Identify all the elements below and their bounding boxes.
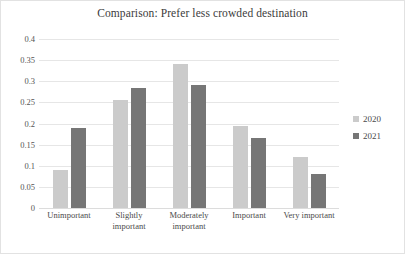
- x-axis-label-line: Very important: [279, 210, 339, 221]
- x-axis-label-line: important: [159, 221, 219, 232]
- y-axis-tick-label: 0.3: [24, 76, 35, 86]
- x-axis-label-line: Unimportant: [39, 210, 99, 221]
- bar-group: [279, 39, 339, 208]
- x-axis-label-line: important: [99, 221, 159, 232]
- y-axis-tick-label: 0.25: [20, 97, 35, 107]
- y-axis-tick-labels: 00.050.10.150.20.250.30.350.4: [1, 39, 35, 208]
- legend-label: 2020: [363, 114, 381, 124]
- chart-title: Comparison: Prefer less crowded destinat…: [1, 7, 404, 19]
- bar-2020[interactable]: [293, 157, 308, 208]
- x-axis-category-labels: UnimportantSlightlyimportantModeratelyim…: [39, 210, 339, 231]
- bar-group: [39, 39, 99, 208]
- bar-group: [159, 39, 219, 208]
- legend: 20202021: [353, 114, 381, 148]
- gridline: [39, 208, 339, 209]
- y-axis-tick-label: 0: [31, 203, 35, 213]
- x-axis-label: Moderatelyimportant: [159, 210, 219, 231]
- y-axis-tick-label: 0.1: [24, 161, 35, 171]
- legend-item-2021[interactable]: 2021: [353, 131, 381, 141]
- bar-group: [99, 39, 159, 208]
- legend-swatch-icon: [353, 133, 359, 139]
- legend-label: 2021: [363, 131, 381, 141]
- x-axis-label: Slightlyimportant: [99, 210, 159, 231]
- y-axis-tick-label: 0.05: [20, 182, 35, 192]
- y-axis-tick-label: 0.2: [24, 119, 35, 129]
- y-axis-tick-label: 0.4: [24, 34, 35, 44]
- bar-2020[interactable]: [53, 170, 68, 208]
- y-axis-tick-label: 0.15: [20, 140, 35, 150]
- legend-item-2020[interactable]: 2020: [353, 114, 381, 124]
- bar-2021[interactable]: [311, 174, 326, 208]
- bar-2021[interactable]: [71, 128, 86, 208]
- legend-swatch-icon: [353, 116, 359, 122]
- x-axis-label: Unimportant: [39, 210, 99, 231]
- bar-2020[interactable]: [233, 126, 248, 208]
- bar-2021[interactable]: [251, 138, 266, 208]
- x-axis-label-line: Important: [219, 210, 279, 221]
- bar-group: [219, 39, 279, 208]
- bar-2021[interactable]: [131, 88, 146, 208]
- x-axis-label-line: Moderately: [159, 210, 219, 221]
- bar-2020[interactable]: [113, 100, 128, 208]
- bar-2021[interactable]: [191, 85, 206, 208]
- y-axis-tick-label: 0.35: [20, 55, 35, 65]
- x-axis-label-line: Slightly: [99, 210, 159, 221]
- x-axis-label: Important: [219, 210, 279, 231]
- bar-2020[interactable]: [173, 64, 188, 208]
- plot-area: [39, 39, 339, 208]
- x-axis-label: Very important: [279, 210, 339, 231]
- chart-frame: Comparison: Prefer less crowded destinat…: [0, 0, 405, 254]
- bar-groups: [39, 39, 339, 208]
